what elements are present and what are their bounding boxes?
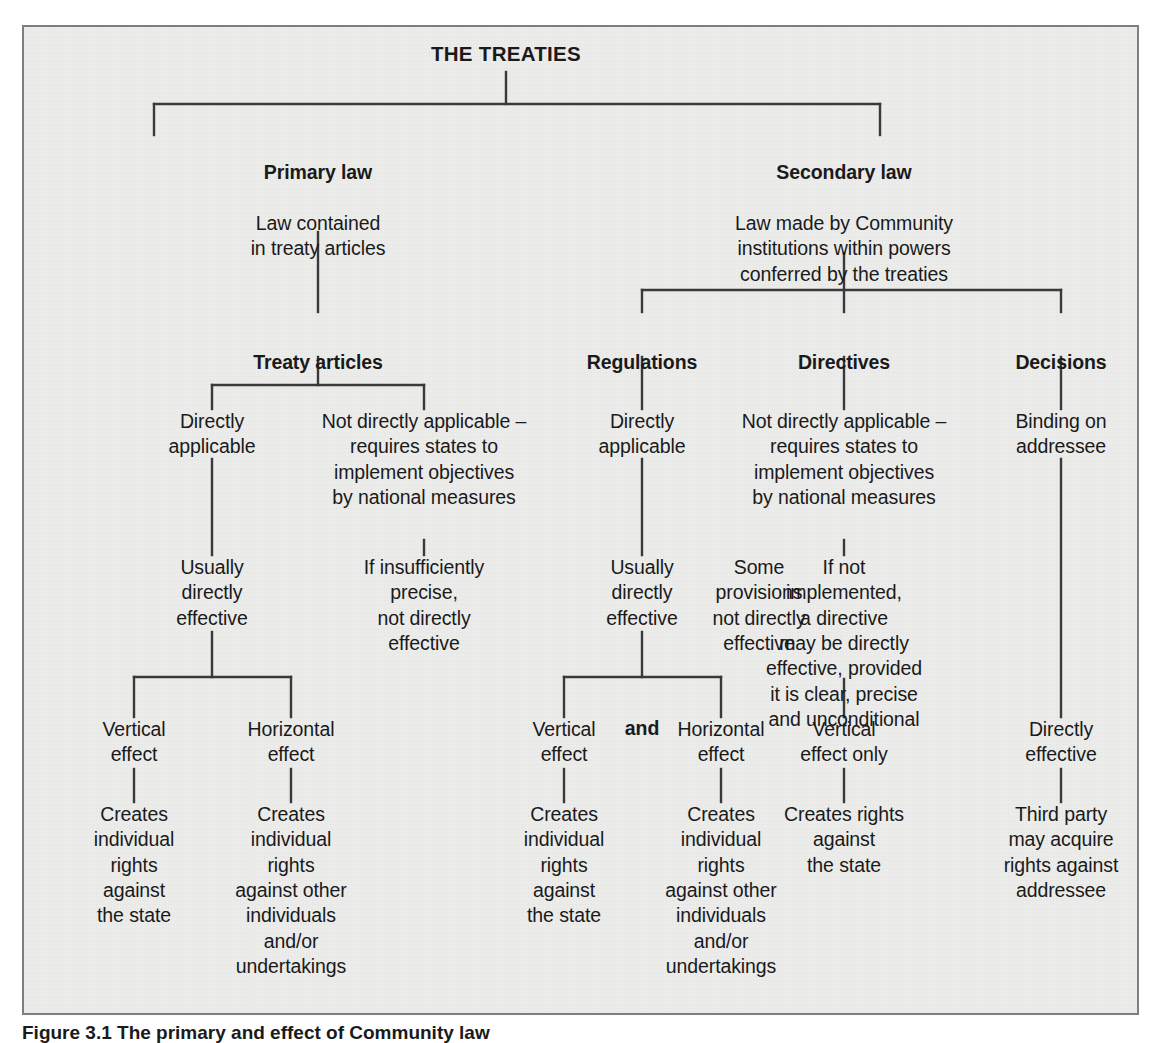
node-treaty-articles-heading: Treaty articles — [208, 350, 428, 375]
node-primary-law: Primary law Law contained in treaty arti… — [198, 135, 438, 287]
node-dec-binding-on-addressee: Binding on addressee — [976, 409, 1139, 460]
node-decisions: Decisions — [971, 325, 1139, 401]
node-regulations: Regulations — [542, 325, 742, 401]
node-primary-law-body: Law contained in treaty articles — [198, 211, 438, 262]
node-primary-law-heading: Primary law — [198, 160, 438, 185]
node-the-treaties: THE TREATIES — [406, 41, 606, 68]
node-dir-outcome: Creates rights against the state — [749, 802, 939, 878]
node-ta-vertical-outcome: Creates individual rights against the st… — [59, 802, 209, 929]
node-dir-vertical-effect-only: Vertical effect only — [759, 717, 929, 768]
node-treaty-articles: Treaty articles — [208, 325, 428, 401]
node-dir-if-not-implemented: If not implemented, a directive may be d… — [718, 555, 970, 732]
node-secondary-law-body: Law made by Community institutions withi… — [689, 211, 999, 287]
node-ta-usually-directly-effective: Usually directly effective — [132, 555, 292, 631]
node-ta-horizontal-effect: Horizontal effect — [211, 717, 371, 768]
node-dir-not-directly-applicable: Not directly applicable – requires state… — [711, 409, 977, 510]
node-ta-not-directly-applicable: Not directly applicable – requires state… — [291, 409, 557, 510]
node-ta-vertical-effect: Vertical effect — [59, 717, 209, 768]
node-reg-directly-applicable: Directly applicable — [552, 409, 732, 460]
node-ta-if-insufficiently-precise: If insufficiently precise, not directly … — [309, 555, 539, 656]
node-ta-directly-applicable: Directly applicable — [122, 409, 302, 460]
node-secondary-law: Secondary law Law made by Community inst… — [689, 135, 999, 312]
node-decisions-heading: Decisions — [971, 350, 1139, 375]
node-dec-directly-effective: Directly effective — [986, 717, 1136, 768]
node-reg-vertical-outcome: Creates individual rights against the st… — [489, 802, 639, 929]
node-regulations-heading: Regulations — [542, 350, 742, 375]
figure-frame: THE TREATIES Primary law Law contained i… — [22, 25, 1139, 1015]
node-ta-horizontal-outcome: Creates individual rights against other … — [196, 802, 386, 979]
node-directives: Directives — [754, 325, 934, 401]
node-directives-heading: Directives — [754, 350, 934, 375]
node-secondary-law-heading: Secondary law — [689, 160, 999, 185]
node-dec-outcome: Third party may acquire rights against a… — [961, 802, 1139, 903]
figure-caption: Figure 3.1 The primary and effect of Com… — [22, 1022, 1132, 1043]
